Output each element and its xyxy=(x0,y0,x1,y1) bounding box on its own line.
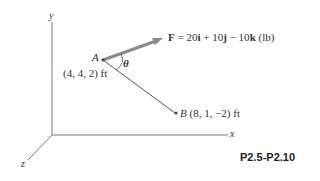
point-b-label: B xyxy=(180,107,187,119)
force-arrowhead xyxy=(152,38,163,45)
force-eq-part2: + 10 xyxy=(201,31,224,43)
point-a-label: A xyxy=(92,52,99,63)
point-a-coords: (4, 4, 2) ft xyxy=(63,68,107,79)
point-b-coords: (8, 1, −2) ft xyxy=(189,107,240,119)
force-arrow-shaft xyxy=(103,41,156,60)
force-eq-part1: = 20 xyxy=(175,31,198,43)
force-symbol: F xyxy=(168,31,175,43)
point-b-label-group: B (8, 1, −2) ft xyxy=(180,108,240,119)
force-unit: (lb) xyxy=(256,31,275,43)
point-a-dot xyxy=(101,58,104,61)
angle-theta-label: θ xyxy=(123,58,129,69)
z-axis-label: z xyxy=(21,159,25,169)
line-ab xyxy=(103,60,175,113)
figure-label: P2.5-P2.10 xyxy=(240,152,295,163)
z-axis xyxy=(28,135,52,160)
y-axis-label: y xyxy=(49,11,53,21)
force-eq-part3: − 10 xyxy=(227,31,250,43)
force-equation: F = 20i + 10j − 10k (lb) xyxy=(168,32,274,43)
x-axis-label: x xyxy=(230,129,234,139)
point-b-dot xyxy=(174,111,177,114)
